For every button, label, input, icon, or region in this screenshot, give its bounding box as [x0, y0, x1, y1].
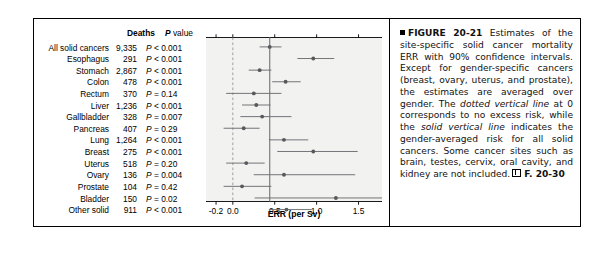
cell-deaths: 478 [96, 77, 137, 87]
cell-pvalue: P = 0.14 [146, 89, 177, 99]
table-row: Ovary136P = 0.004 [34, 170, 200, 182]
cell-deaths: 104 [96, 182, 137, 192]
table-row: Rectum370P = 0.14 [34, 89, 200, 101]
cell-deaths: 291 [96, 54, 137, 64]
cell-deaths: 407 [96, 124, 137, 134]
panel-divider [389, 19, 390, 226]
cell-pvalue: P < 0.001 [146, 77, 182, 87]
caption-bullet-icon [400, 30, 405, 35]
data-table: Deaths P value All solid cancers9,335P <… [34, 19, 200, 226]
cell-deaths: 9,335 [96, 43, 137, 53]
x-axis-title: ERR (per Sv) [200, 209, 388, 219]
cell-pvalue: P < 0.001 [146, 54, 182, 64]
table-row: Gallbladder328P = 0.007 [34, 112, 200, 124]
table-row: Uterus518P = 0.20 [34, 159, 200, 171]
cell-pvalue: P < 0.001 [146, 147, 182, 157]
table-row: Pancreas407P = 0.29 [34, 124, 200, 136]
cell-pvalue: P = 0.004 [146, 170, 182, 180]
cell-deaths: 370 [96, 89, 137, 99]
cell-pvalue: P < 0.001 [146, 135, 182, 145]
forest-plot: -0.20.00.51.01.5 ERR (per Sv) [200, 19, 388, 226]
table-row: All solid cancers9,335P < 0.001 [34, 43, 200, 55]
cell-pvalue: P < 0.001 [146, 43, 182, 53]
table-row: Bladder150P = 0.02 [34, 194, 200, 206]
figure-number: FIGURE 20-21 [408, 28, 482, 38]
cell-pvalue: P = 0.007 [146, 112, 182, 122]
cell-pvalue: P = 0.29 [146, 124, 177, 134]
table-row: Other solid911P < 0.001 [34, 205, 200, 217]
table-row: Liver1,236P < 0.001 [34, 101, 200, 113]
cell-pvalue: P < 0.001 [146, 205, 182, 215]
cell-pvalue: P = 0.20 [146, 159, 177, 169]
table-row: Esophagus291P < 0.001 [34, 54, 200, 66]
table-row: Colon478P < 0.001 [34, 77, 200, 89]
figure-left-panel: Deaths P value All solid cancers9,335P <… [34, 19, 388, 226]
caption-text-1: Estimates of the site-specific solid can… [400, 28, 573, 109]
cell-pvalue: P < 0.001 [146, 66, 182, 76]
cell-deaths: 2,867 [96, 66, 137, 76]
caption-italic-1: dotted vertical line [460, 99, 549, 109]
cell-deaths: 1,236 [96, 101, 137, 111]
cell-deaths: 150 [96, 194, 137, 204]
table-row: Lung1,264P < 0.001 [34, 135, 200, 147]
cell-deaths: 1,264 [96, 135, 137, 145]
figure-caption: FIGURE 20-21 Estimates of the site-speci… [389, 19, 582, 226]
table-row: Prostate104P = 0.42 [34, 182, 200, 194]
cell-deaths: 328 [96, 112, 137, 122]
cell-deaths: 136 [96, 170, 137, 180]
cell-deaths: 911 [96, 205, 137, 215]
column-header-pvalue: P value [165, 28, 193, 38]
cell-pvalue: P = 0.02 [146, 194, 177, 204]
cell-pvalue: P = 0.42 [146, 182, 177, 192]
cell-deaths: 275 [96, 147, 137, 157]
figure-frame: Deaths P value All solid cancers9,335P <… [33, 18, 581, 227]
plot-canvas: -0.20.00.51.01.5 [200, 19, 388, 226]
table-row: Breast275P < 0.001 [34, 147, 200, 159]
column-header-deaths: Deaths [127, 28, 155, 38]
table-row: Stomach2,867P < 0.001 [34, 66, 200, 78]
caption-italic-2: solid vertical line [421, 122, 505, 132]
cell-deaths: 518 [96, 159, 137, 169]
book-icon [512, 169, 521, 177]
caption-reference: F. 20-30 [524, 169, 565, 179]
cell-pvalue: P < 0.001 [146, 101, 182, 111]
